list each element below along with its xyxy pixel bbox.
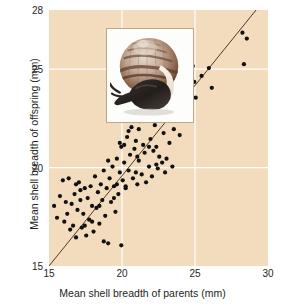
y-tick-label: 28 xyxy=(32,5,49,16)
y-tick-label: 15 xyxy=(32,261,49,272)
plot-area xyxy=(49,10,268,266)
snail-photograph-inset xyxy=(106,28,194,123)
x-tick-label: 25 xyxy=(189,268,200,279)
x-tick-label: 30 xyxy=(262,268,273,279)
x-tick-label: 20 xyxy=(116,268,127,279)
x-axis-label: Mean shell breadth of parents (mm) xyxy=(0,287,285,299)
snail-heritability-scatter-figure: 15202530 15202528 Mean shell breadth of … xyxy=(0,0,285,307)
snail-illustration xyxy=(110,32,190,119)
y-axis-label: Mean shell breadth of offspring (mm) xyxy=(28,49,40,239)
